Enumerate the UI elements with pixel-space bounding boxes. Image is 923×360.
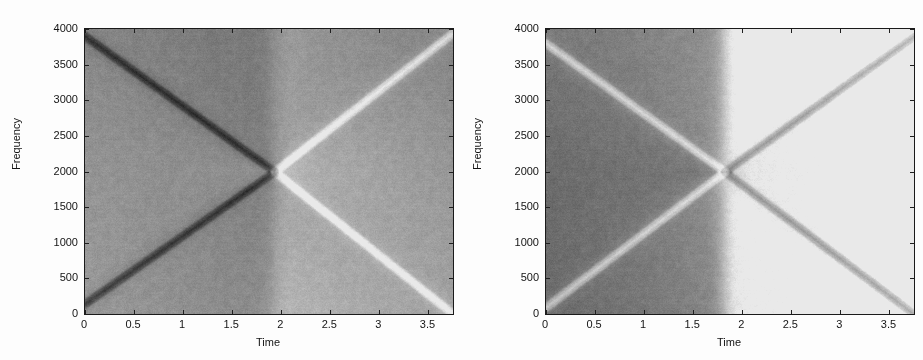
- y-tick-label: 0: [533, 307, 539, 319]
- y-tick-mark-right: [910, 278, 914, 279]
- y-tick-mark-right: [449, 65, 453, 66]
- x-tick-mark-top: [791, 29, 792, 33]
- y-tick-label: 2000: [515, 165, 539, 177]
- y-tick-mark: [85, 65, 89, 66]
- x-axis-title-right: Time: [545, 336, 913, 348]
- y-tick-mark: [546, 136, 550, 137]
- x-tick-label: 2: [738, 318, 744, 330]
- y-tick-mark: [546, 314, 550, 315]
- x-tick-label: 2.5: [322, 318, 337, 330]
- y-tick-label: 2000: [54, 165, 78, 177]
- x-tick-mark-top: [134, 29, 135, 33]
- y-tick-label: 1500: [54, 200, 78, 212]
- y-tick-label: 4000: [54, 22, 78, 34]
- y-tick-mark-right: [449, 207, 453, 208]
- y-axis-title-right: Frequency: [471, 118, 483, 170]
- y-tick-mark-right: [449, 243, 453, 244]
- y-tick-mark: [85, 136, 89, 137]
- y-tick-mark: [546, 243, 550, 244]
- y-tick-label: 500: [60, 271, 78, 283]
- x-tick-label: 3.5: [881, 318, 896, 330]
- y-tick-mark-right: [910, 243, 914, 244]
- x-tick-label: 0.5: [586, 318, 601, 330]
- y-tick-label: 3500: [515, 58, 539, 70]
- y-tick-mark-right: [449, 278, 453, 279]
- y-tick-mark: [546, 172, 550, 173]
- x-tick-mark: [428, 310, 429, 314]
- y-tick-mark-right: [910, 172, 914, 173]
- figure-root: 05001000150020002500300035004000 00.511.…: [0, 0, 923, 360]
- x-tick-label: 0: [542, 318, 548, 330]
- x-tick-label: 0.5: [125, 318, 140, 330]
- x-tick-mark: [742, 310, 743, 314]
- x-tick-mark-top: [693, 29, 694, 33]
- x-tick-label: 0: [81, 318, 87, 330]
- x-tick-mark: [281, 310, 282, 314]
- y-axis-title-left: Frequency: [10, 118, 22, 170]
- y-tick-label: 3500: [54, 58, 78, 70]
- x-tick-mark: [232, 310, 233, 314]
- y-tick-mark-right: [910, 207, 914, 208]
- y-tick-labels-right: 05001000150020002500300035004000: [503, 28, 539, 313]
- x-tick-mark-top: [644, 29, 645, 33]
- y-tick-label: 0: [72, 307, 78, 319]
- y-tick-mark-right: [910, 100, 914, 101]
- x-tick-mark: [889, 310, 890, 314]
- y-tick-mark-right: [910, 29, 914, 30]
- y-tick-mark-right: [910, 65, 914, 66]
- x-tick-label: 1.5: [224, 318, 239, 330]
- x-tick-labels-right: 00.511.522.533.5: [545, 318, 913, 334]
- y-tick-label: 1500: [515, 200, 539, 212]
- y-tick-label: 1000: [54, 236, 78, 248]
- x-tick-mark-top: [742, 29, 743, 33]
- y-tick-mark-right: [449, 136, 453, 137]
- x-tick-mark: [791, 310, 792, 314]
- y-tick-mark: [546, 207, 550, 208]
- x-tick-label: 2.5: [783, 318, 798, 330]
- x-tick-label: 1.5: [685, 318, 700, 330]
- x-tick-mark-top: [330, 29, 331, 33]
- y-tick-mark-right: [910, 314, 914, 315]
- x-tick-mark: [644, 310, 645, 314]
- x-tick-mark-top: [281, 29, 282, 33]
- y-tick-label: 2500: [515, 129, 539, 141]
- y-tick-mark: [85, 243, 89, 244]
- x-tick-mark: [595, 310, 596, 314]
- y-tick-mark-right: [449, 29, 453, 30]
- x-tick-mark-top: [232, 29, 233, 33]
- x-tick-label: 1: [640, 318, 646, 330]
- tfd-image-right: [546, 29, 914, 314]
- x-tick-mark-top: [595, 29, 596, 33]
- x-tick-mark-top: [889, 29, 890, 33]
- y-tick-labels-left: 05001000150020002500300035004000: [42, 28, 78, 313]
- x-tick-mark: [546, 310, 547, 314]
- y-tick-mark-right: [449, 172, 453, 173]
- y-tick-label: 3000: [515, 93, 539, 105]
- x-tick-mark-top: [85, 29, 86, 33]
- y-tick-mark: [85, 172, 89, 173]
- x-tick-mark: [840, 310, 841, 314]
- y-tick-mark-right: [449, 314, 453, 315]
- x-tick-mark-top: [379, 29, 380, 33]
- tfd-image-left: [85, 29, 453, 314]
- x-tick-label: 2: [277, 318, 283, 330]
- y-tick-label: 2500: [54, 129, 78, 141]
- y-tick-label: 1000: [515, 236, 539, 248]
- x-tick-mark-top: [428, 29, 429, 33]
- x-tick-label: 3: [375, 318, 381, 330]
- plot-area-right: [545, 28, 915, 315]
- y-tick-mark: [85, 207, 89, 208]
- x-tick-mark-top: [546, 29, 547, 33]
- y-tick-label: 3000: [54, 93, 78, 105]
- x-tick-label: 1: [179, 318, 185, 330]
- x-tick-label: 3.5: [420, 318, 435, 330]
- x-axis-title-left: Time: [84, 336, 452, 348]
- tfd-plot-left: 05001000150020002500300035004000 00.511.…: [0, 0, 461, 360]
- tfd-plot-right: 05001000150020002500300035004000 00.511.…: [461, 0, 922, 360]
- x-tick-mark-top: [183, 29, 184, 33]
- y-tick-mark: [85, 314, 89, 315]
- y-tick-mark: [546, 100, 550, 101]
- x-tick-label: 3: [836, 318, 842, 330]
- x-tick-mark: [134, 310, 135, 314]
- y-tick-label: 4000: [515, 22, 539, 34]
